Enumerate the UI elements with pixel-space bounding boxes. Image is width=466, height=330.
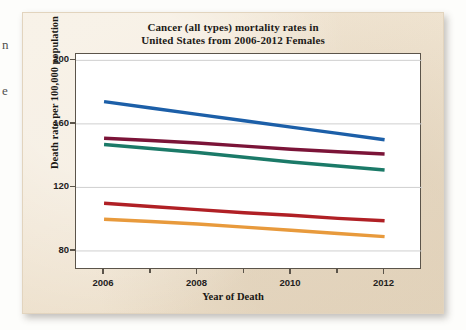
- plot-area: [75, 53, 421, 269]
- figure-panel: Cancer (all types) mortality rates in Un…: [22, 12, 444, 314]
- line-series-4-red: [104, 203, 385, 220]
- y-tick-label: 120: [43, 180, 69, 191]
- y-tick-label: 200: [43, 53, 69, 64]
- x-tick-mark: [196, 269, 197, 274]
- x-tick-mark-minor: [243, 269, 244, 273]
- x-tick-label: 2006: [83, 277, 123, 288]
- x-tick-mark-minor: [336, 269, 337, 273]
- x-tick-label: 2012: [364, 277, 404, 288]
- data-series-lines: [104, 102, 385, 237]
- line-series-1-blue: [104, 102, 385, 140]
- line-series-2-maroon: [104, 138, 385, 154]
- x-tick-mark: [102, 269, 103, 274]
- scanned-page-background: n e Cancer (all types) mortality rates i…: [0, 0, 466, 330]
- chart-title-line-1: Cancer (all types) mortality rates in: [147, 21, 318, 33]
- x-tick-mark: [289, 269, 290, 274]
- x-tick-label: 2008: [177, 277, 217, 288]
- chart-title: Cancer (all types) mortality rates in Un…: [23, 21, 443, 47]
- x-tick-mark: [383, 269, 384, 274]
- y-tick-label: 80: [43, 244, 69, 255]
- page-edge-text-fragment-1: n: [2, 38, 9, 51]
- page-edge-text-fragment-2: e: [2, 84, 8, 97]
- gridlines: [76, 60, 422, 251]
- y-tick-mark: [70, 122, 75, 123]
- x-axis-title: Year of Death: [23, 291, 443, 302]
- y-axis-title: Death rate per 100,000 population: [49, 12, 60, 188]
- line-series-3-teal: [104, 145, 385, 170]
- line-series-5-orange: [104, 219, 385, 236]
- y-tick-mark: [70, 249, 75, 250]
- y-tick-mark: [70, 59, 75, 60]
- x-tick-mark-minor: [149, 269, 150, 273]
- chart-lines-svg: [76, 54, 422, 270]
- x-tick-label: 2010: [270, 277, 310, 288]
- chart-title-line-2: United States from 2006-2012 Females: [23, 34, 443, 47]
- y-tick-mark: [70, 186, 75, 187]
- y-tick-label: 160: [43, 117, 69, 128]
